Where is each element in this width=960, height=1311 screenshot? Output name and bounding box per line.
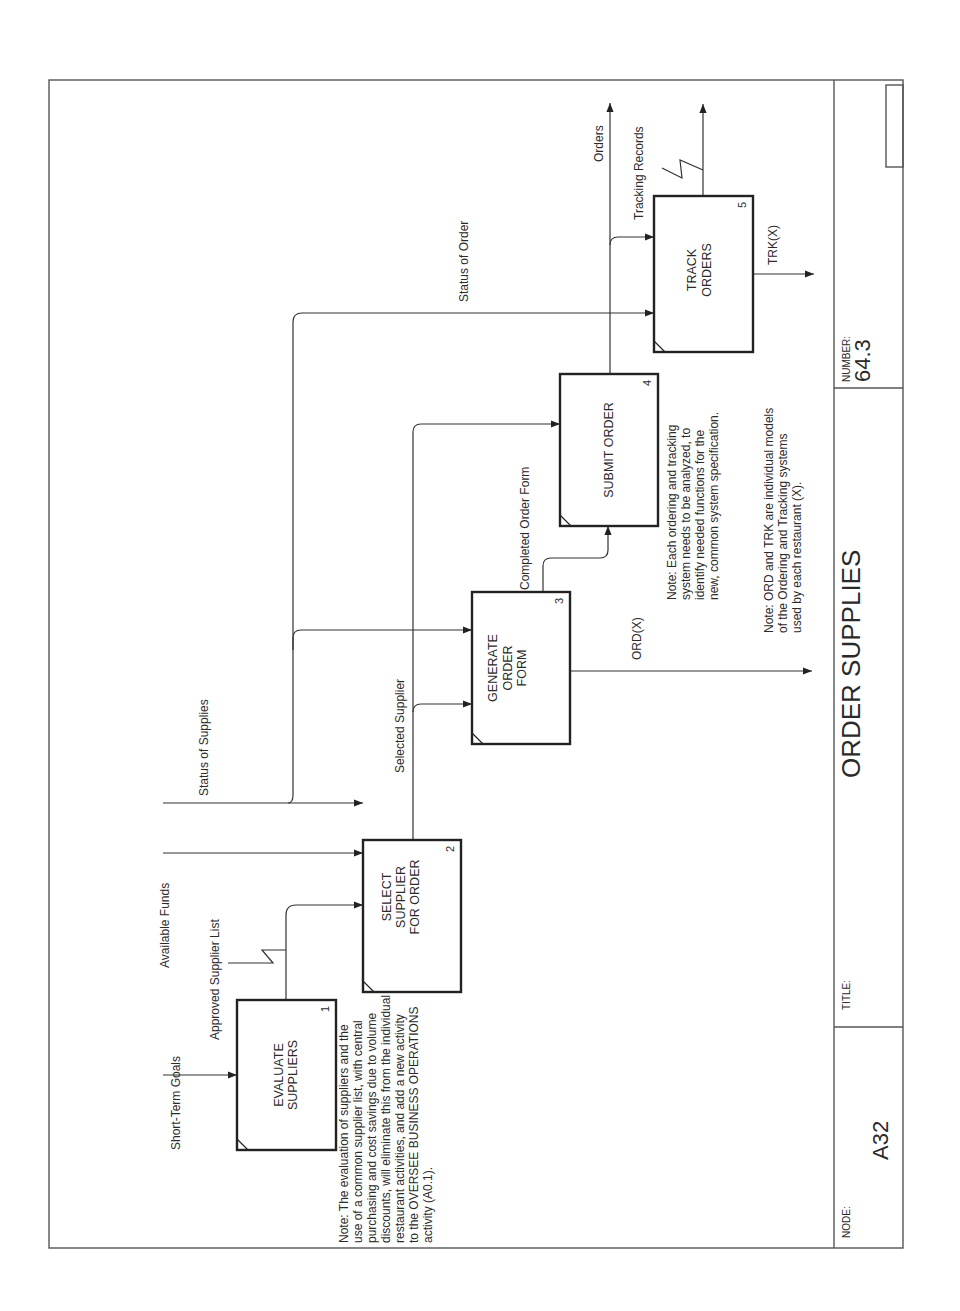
squiggle-approved-supplier-list <box>228 950 286 963</box>
activity-box-2[interactable]: 2 SELECT SUPPLIER FOR ORDER <box>363 840 461 992</box>
box-3-label-line2: ORDER <box>501 645 515 690</box>
label-tracking-records: Tracking Records <box>632 126 646 220</box>
box-4-label-line1: SUBMIT ORDER <box>602 402 616 498</box>
note3-line: used by each restaurant (X). <box>790 482 804 633</box>
activity-box-1[interactable]: 1 EVALUATE SUPPLIERS <box>237 1000 336 1150</box>
note2-line: system needs to be analyzed, to <box>679 428 693 600</box>
arrow-orders-to-box5[interactable] <box>610 237 654 245</box>
arrow-approved-supplier-list[interactable] <box>286 905 363 1000</box>
note3-line: of the Ordering and Tracking systems <box>776 434 790 633</box>
box-2-label-line1: SELECT <box>380 872 394 921</box>
node-value: A32 <box>868 1121 893 1160</box>
note3-line: Note: ORD and TRK are individual models <box>762 408 776 633</box>
box-5-label-line1: TRACK <box>685 248 699 291</box>
box-2-number: 2 <box>444 846 456 852</box>
activity-box-3[interactable]: 3 GENERATE ORDER FORM <box>472 592 570 744</box>
box-1-number: 1 <box>319 1006 331 1012</box>
squiggle-tracking-records <box>662 160 703 178</box>
label-approved-supplier-list: Approved Supplier List <box>208 919 222 1040</box>
label-selected-supplier: Selected Supplier <box>393 679 407 773</box>
diagram-title: ORDER SUPPLIES <box>836 550 866 778</box>
arrow-completed-order-form[interactable] <box>543 526 608 592</box>
arrow-status-of-supplies-to-box3[interactable] <box>288 630 472 803</box>
note1-line: to the OVERSEE BUSINESS OPERATIONS <box>407 1006 421 1243</box>
box-2-label-line3: FOR ORDER <box>408 860 422 935</box>
note1-line: Note: The evaluation of suppliers and th… <box>337 1024 351 1243</box>
idef0-diagram: NODE: A32 TITLE: ORDER SUPPLIES NUMBER: … <box>0 0 960 1311</box>
label-status-of-order: Status of Order <box>457 221 471 302</box>
number-value: 64.3 <box>850 339 875 382</box>
note2-line: Note: Each ordering and tracking <box>665 425 679 600</box>
activity-box-4[interactable]: 4 SUBMIT ORDER <box>560 374 658 526</box>
activity-box-5[interactable]: 5 TRACK ORDERS <box>654 196 753 352</box>
note1-line: use of a common supplier list, with cent… <box>351 1020 365 1243</box>
note2-line: identify needed functions for the <box>693 430 707 600</box>
box-3-number: 3 <box>553 598 565 604</box>
arrow-selected-supplier[interactable] <box>413 704 472 840</box>
note1-line: activity (A0.1). <box>421 1167 435 1243</box>
box-2-label-line2: SUPPLIER <box>394 866 408 928</box>
note-ord-trk-models: Note: ORD and TRK are individual models … <box>762 408 804 633</box>
box-1-label-line2: SUPPLIERS <box>286 1040 300 1110</box>
note-ordering-tracking-systems: Note: Each ordering and tracking system … <box>665 412 721 600</box>
label-ord-x: ORD(X) <box>630 617 644 660</box>
note-evaluate-suppliers: Note: The evaluation of suppliers and th… <box>337 995 435 1243</box>
label-trk-x: TRK(X) <box>766 225 780 265</box>
label-short-term-goals: Short-Term Goals <box>169 1056 183 1150</box>
note2-line: new, common system specification. <box>707 412 721 600</box>
box-5-label-line2: ORDERS <box>700 243 714 296</box>
box-3-label-line3: FORM <box>515 650 529 687</box>
title-block: NODE: A32 TITLE: ORDER SUPPLIES NUMBER: … <box>836 336 893 1238</box>
node-label: NODE: <box>841 1206 852 1238</box>
box-4-number: 4 <box>641 380 653 386</box>
label-completed-order-form: Completed Order Form <box>518 467 532 590</box>
label-orders: Orders <box>592 125 606 162</box>
box-3-label-line1: GENERATE <box>486 634 500 702</box>
box-5-number: 5 <box>736 202 748 208</box>
label-status-of-supplies: Status of Supplies <box>197 699 211 796</box>
note1-line: purchasing and cost savings due to volum… <box>365 1013 379 1243</box>
label-available-funds: Available Funds <box>158 883 172 968</box>
title-label: TITLE: <box>841 980 852 1010</box>
note1-line: restaurant activities, and add a new act… <box>393 1014 407 1243</box>
box-1-label-line1: EVALUATE <box>272 1043 286 1106</box>
note1-line: discounts, will eliminate this from the … <box>379 995 393 1243</box>
